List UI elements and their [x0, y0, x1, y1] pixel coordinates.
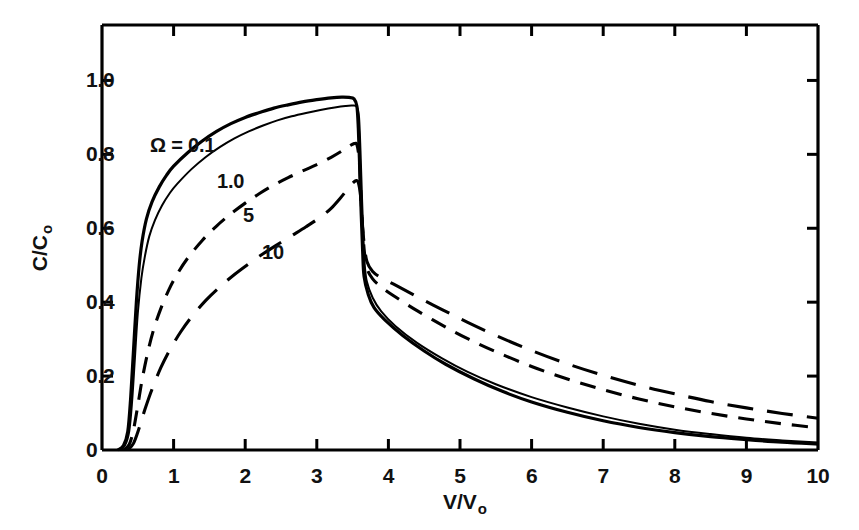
x-axis-title-main: V/V — [443, 490, 477, 513]
y-axis-title-subscript: o — [39, 225, 56, 235]
x-tick-label: 4 — [383, 464, 394, 488]
x-tick-label: 7 — [597, 464, 608, 488]
x-tick-label: 5 — [454, 464, 465, 488]
x-tick-label: 10 — [807, 464, 830, 488]
y-axis-title: C/Co — [28, 225, 55, 271]
x-tick-label: 6 — [526, 464, 537, 488]
curve-omega-10 — [128, 180, 818, 450]
curve-label-omega-10: 10 — [262, 241, 284, 264]
x-tick-label: 1 — [168, 464, 179, 488]
curve-label-omega-5: 5 — [243, 204, 254, 227]
curve-omega-1.0 — [119, 106, 818, 450]
x-tick-label: 0 — [96, 464, 107, 488]
data-curves — [118, 97, 818, 450]
x-axis-title: V/Vo — [443, 490, 487, 517]
plot-frame — [102, 25, 818, 450]
curve-omega-0.1 — [118, 97, 818, 450]
chart-figure: 012345678910 00.20.40.60.81.0 Ω = 0.11.0… — [0, 0, 859, 530]
curve-label-omega-0.1: Ω = 0.1 — [150, 134, 215, 157]
plot-canvas — [0, 0, 859, 530]
y-axis-title-main: C/C — [28, 235, 51, 271]
x-axis-title-subscript: o — [477, 500, 487, 517]
x-tick-label: 3 — [311, 464, 322, 488]
x-tick-label: 2 — [239, 464, 250, 488]
x-tick-label: 8 — [669, 464, 680, 488]
curve-label-omega-1.0: 1.0 — [217, 170, 244, 193]
axis-ticks — [102, 25, 818, 450]
x-tick-label: 9 — [741, 464, 752, 488]
